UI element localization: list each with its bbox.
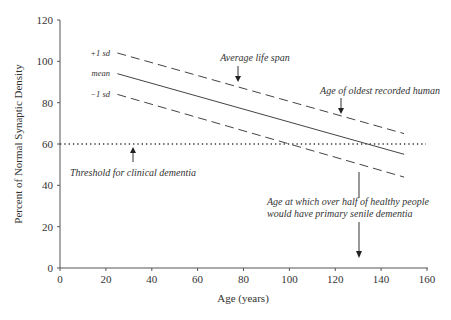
chart: 0 20 40 60 80 100 120 0 20 40 60 80 100 … (0, 0, 451, 320)
arrow-down-icon (235, 76, 241, 82)
minus-1sd-line (117, 94, 404, 177)
senile-label-line2: would have primary senile dementia (267, 208, 413, 219)
y-tick-label: 20 (42, 221, 54, 233)
y-tick-labels: 0 20 40 60 80 100 120 (37, 14, 54, 274)
mean-label: mean (92, 68, 110, 78)
x-tick-label: 100 (281, 273, 298, 285)
arrow-down-icon (338, 108, 344, 114)
y-tick-label: 120 (37, 14, 54, 26)
x-tick-label: 80 (238, 273, 250, 285)
arrow-up-icon (130, 147, 136, 153)
x-tick-label: 160 (419, 273, 436, 285)
y-tick-label: 100 (37, 55, 54, 67)
y-tick-label: 40 (42, 179, 54, 191)
x-tick-label: 60 (192, 273, 204, 285)
y-tick-label: 0 (48, 262, 54, 274)
y-tick-label: 80 (42, 97, 54, 109)
minus-1sd-label: −1 sd (90, 89, 110, 99)
senile-label-line1: Age at which over half of healthy people (266, 196, 429, 207)
y-tick-label: 60 (42, 138, 54, 150)
x-tick-labels: 0 20 40 60 80 100 120 140 160 (57, 273, 436, 285)
y-axis-title: Percent of Normal Synaptic Density (12, 64, 24, 224)
x-tick-label: 40 (146, 273, 158, 285)
plus-1sd-label: +1 sd (90, 48, 110, 58)
x-tick-label: 0 (57, 273, 63, 285)
x-axis-title: Age (years) (217, 292, 269, 305)
x-tick-label: 20 (100, 273, 112, 285)
oldest-human-label: Age of oldest recorded human (319, 85, 440, 96)
threshold-label: Threshold for clinical dementia (70, 167, 196, 178)
average-life-span-label: Average life span (219, 52, 289, 63)
x-tick-label: 120 (327, 273, 344, 285)
arrow-down-icon (356, 251, 362, 258)
x-tick-label: 140 (373, 273, 390, 285)
